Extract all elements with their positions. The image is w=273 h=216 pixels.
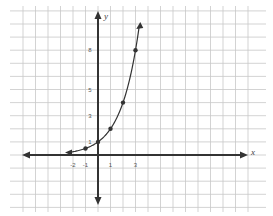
x-axis-label: x [250,147,255,157]
data-point [108,127,112,131]
y-axis-down-arrow-icon [95,197,102,205]
data-point [121,100,125,104]
y-axis-up-arrow-icon [95,11,102,19]
curve-right-arrow-icon [136,22,143,29]
x-tick-label: 3 [134,162,138,168]
data-point [83,146,87,150]
x-tick-label: 1 [109,162,113,168]
data-point [96,140,100,144]
x-tick-label: -2 [70,162,76,168]
x-axis-right-arrow-icon [240,152,248,159]
x-tick-label: -1 [83,162,89,168]
data-point [133,48,137,52]
y-axis-label: y [103,11,108,21]
coordinate-plane: y x -2-1131358 [0,0,273,216]
